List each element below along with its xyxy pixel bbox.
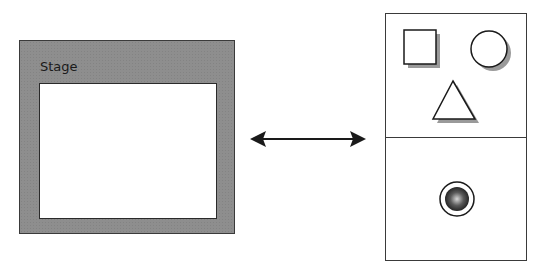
stage-canvas bbox=[39, 83, 217, 219]
triangle-icon[interactable] bbox=[433, 81, 479, 123]
stage-frame: Stage bbox=[19, 40, 235, 234]
library-panel bbox=[385, 13, 527, 261]
double-arrow-icon bbox=[248, 128, 368, 150]
circle-icon[interactable] bbox=[471, 31, 511, 71]
library-components-section bbox=[386, 138, 526, 260]
stage-label: Stage bbox=[40, 59, 78, 74]
square-icon[interactable] bbox=[404, 30, 440, 68]
library-shapes-section bbox=[386, 14, 526, 138]
radio-button-icon[interactable] bbox=[440, 182, 474, 216]
